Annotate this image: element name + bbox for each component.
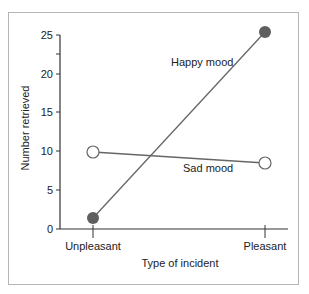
- x-tick-label: Pleasant: [244, 240, 287, 252]
- sad-pleasant-point: [259, 157, 271, 169]
- y-tick-label: 0: [47, 223, 53, 235]
- y-tick-label: 5: [47, 184, 53, 196]
- sad-mood-line: [93, 152, 265, 163]
- y-tick-label: 20: [41, 68, 53, 80]
- y-tick-label: 10: [41, 145, 53, 157]
- happy-unpleasant-point: [87, 212, 99, 224]
- x-tick-label: Unpleasant: [65, 240, 121, 252]
- happy-mood-label: Happy mood: [171, 56, 233, 68]
- line-chart: 0 5 10 15 20 25 Unpleasant Pleasant Type…: [0, 0, 309, 294]
- sad-mood-label: Sad mood: [183, 162, 233, 174]
- y-axis-title: Number retrieved: [19, 86, 31, 171]
- sad-unpleasant-point: [87, 146, 99, 158]
- y-tick-label: 25: [41, 29, 53, 41]
- happy-pleasant-point: [259, 26, 271, 38]
- y-tick-label: 15: [41, 106, 53, 118]
- x-axis-title: Type of incident: [141, 257, 218, 269]
